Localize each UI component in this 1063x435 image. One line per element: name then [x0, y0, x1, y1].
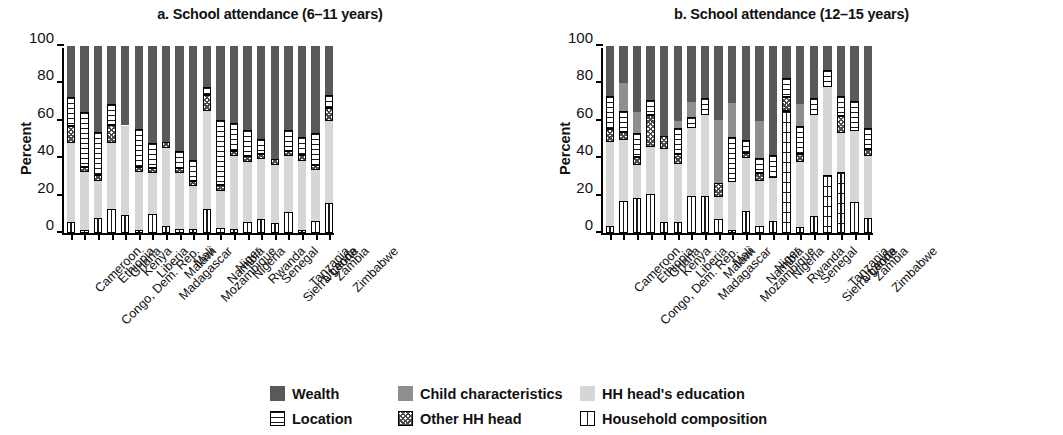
bar-segment-otherhh	[325, 108, 334, 121]
y-axis-tick-label: 60	[14, 103, 54, 120]
bar-segment-otherhh	[674, 154, 683, 163]
bar-madagascar[interactable]	[148, 46, 157, 233]
bar-rwanda[interactable]	[243, 46, 252, 233]
bar-ghana[interactable]	[646, 46, 655, 233]
bar-liberia[interactable]	[674, 46, 683, 233]
bar-zambia[interactable]	[850, 46, 859, 233]
bar-segment-hhedu	[619, 140, 628, 202]
x-axis-tick	[814, 233, 816, 240]
bar-segment-hhcomp	[203, 209, 212, 233]
bar-segment-location	[135, 129, 144, 166]
bar-segment-wealth	[162, 46, 171, 142]
bar-segment-otherhh	[230, 151, 239, 157]
solid-medium-gray-icon	[398, 386, 413, 401]
bar-congo-dem-rep[interactable]	[619, 46, 628, 233]
bar-segment-otherhh	[311, 165, 320, 171]
legend-item-wealth[interactable]: Wealth	[270, 386, 339, 402]
bar-segment-otherhh	[162, 142, 171, 148]
bar-rwanda[interactable]	[782, 46, 791, 233]
bar-segment-wealth	[606, 46, 615, 96]
bar-mali[interactable]	[175, 46, 184, 233]
bar-segment-hhcomp	[175, 229, 184, 233]
x-axis-tick	[112, 233, 114, 240]
bar-segment-wealth	[864, 46, 873, 128]
bar-uganda[interactable]	[837, 46, 846, 233]
bar-namibia[interactable]	[203, 46, 212, 233]
bar-segment-location	[298, 137, 307, 156]
bar-tanzania[interactable]	[284, 46, 293, 233]
bar-segment-hhcomp	[823, 175, 832, 233]
bar-segment-location	[216, 120, 225, 185]
x-axis-tick	[220, 233, 222, 240]
bar-segment-hhedu	[728, 182, 737, 231]
bar-segment-otherhh	[189, 181, 198, 187]
bar-segment-location	[728, 137, 737, 182]
bar-niger[interactable]	[216, 46, 225, 233]
bar-kenya[interactable]	[121, 46, 130, 233]
bar-segment-hhedu	[80, 172, 89, 230]
bar-congo-dem-rep[interactable]	[80, 46, 89, 233]
bar-malawi[interactable]	[162, 46, 171, 233]
bar-segment-hhcomp	[80, 230, 89, 233]
bar-ghana[interactable]	[107, 46, 116, 233]
x-axis-tick	[623, 233, 625, 240]
legend-item-location[interactable]: Location	[270, 411, 352, 427]
x-axis-tick	[855, 233, 857, 240]
bar-namibia[interactable]	[742, 46, 751, 233]
bar-mozambique[interactable]	[189, 46, 198, 233]
bar-zambia[interactable]	[311, 46, 320, 233]
bar-uganda[interactable]	[298, 46, 307, 233]
bar-liberia[interactable]	[135, 46, 144, 233]
bar-segment-hhcomp	[633, 198, 642, 233]
bar-segment-location	[864, 128, 873, 149]
bar-nigeria[interactable]	[230, 46, 239, 233]
x-axis-tick	[180, 233, 182, 240]
legend-item-hhcomp[interactable]: Household composition	[580, 411, 767, 427]
bar-tanzania[interactable]	[823, 46, 832, 233]
legend-item-hhedu[interactable]: HH head's education	[580, 386, 745, 402]
bar-segment-wealth	[148, 46, 157, 143]
y-axis-tick-label: 40	[553, 141, 593, 158]
bar-sierra-leone[interactable]	[271, 46, 280, 233]
bar-cameroon[interactable]	[67, 46, 76, 233]
bar-madagascar[interactable]	[687, 46, 696, 233]
solid-dark-gray-icon	[270, 386, 285, 401]
bar-segment-hhedu	[243, 162, 252, 222]
bar-niger[interactable]	[755, 46, 764, 233]
bar-sierra-leone[interactable]	[810, 46, 819, 233]
bar-segment-hhcomp	[243, 222, 252, 233]
bar-segment-hhcomp	[257, 219, 266, 233]
bar-kenya[interactable]	[660, 46, 669, 233]
bar-mozambique[interactable]	[728, 46, 737, 233]
bar-segment-location	[230, 123, 239, 151]
bar-segment-hhcomp	[701, 196, 710, 233]
bar-malawi[interactable]	[701, 46, 710, 233]
bar-zimbabwe[interactable]	[864, 46, 873, 233]
legend-item-otherhh[interactable]: Other HH head	[398, 411, 522, 427]
bar-zimbabwe[interactable]	[325, 46, 334, 233]
bar-mali[interactable]	[714, 46, 723, 233]
y-axis-tick	[57, 231, 64, 233]
x-axis-tick	[166, 233, 168, 240]
bar-ethiopia[interactable]	[633, 46, 642, 233]
legend-item-child[interactable]: Child characteristics	[398, 386, 563, 402]
y-axis-tick	[596, 81, 603, 83]
bar-senegal[interactable]	[796, 46, 805, 233]
bar-segment-hhcomp	[284, 212, 293, 233]
vertical-split-box-icon	[580, 411, 595, 426]
bar-segment-hhcomp	[298, 230, 307, 233]
bar-ethiopia[interactable]	[94, 46, 103, 233]
bar-senegal[interactable]	[257, 46, 266, 233]
bar-segment-child	[633, 112, 642, 133]
legend-label: Other HH head	[420, 411, 522, 427]
bar-segment-otherhh	[796, 154, 805, 161]
x-axis-tick	[773, 233, 775, 240]
bar-segment-otherhh	[742, 153, 751, 159]
legend-label: HH head's education	[602, 386, 745, 402]
y-axis-tick	[57, 81, 64, 83]
bar-segment-wealth	[755, 46, 764, 121]
x-axis-tick	[705, 233, 707, 240]
chart-a-title: a. School attendance (6–11 years)	[0, 6, 540, 22]
bar-nigeria[interactable]	[769, 46, 778, 233]
bar-cameroon[interactable]	[606, 46, 615, 233]
